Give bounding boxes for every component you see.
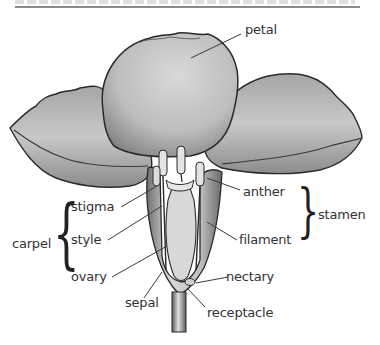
flower-illustration	[0, 0, 380, 345]
center-petal	[102, 33, 238, 157]
leader-nectary	[196, 277, 228, 283]
label-nectary: nectary	[226, 270, 274, 283]
label-petal: petal	[245, 23, 277, 36]
label-filament: filament	[239, 233, 291, 246]
label-anther: anther	[243, 185, 285, 198]
leader-receptacle	[187, 288, 205, 307]
flower-diagram: petal stigma style ovary carpel { anther…	[0, 0, 380, 345]
nectary-shape	[185, 279, 195, 286]
stem	[172, 292, 186, 332]
label-receptacle: receptacle	[207, 306, 273, 319]
label-carpel: carpel	[12, 237, 51, 250]
label-stamen: stamen	[318, 208, 366, 221]
stamen-brace: }	[297, 182, 319, 240]
carpel-brace: {	[53, 195, 80, 271]
carpel-structure	[166, 180, 196, 281]
label-sepal: sepal	[125, 296, 159, 309]
